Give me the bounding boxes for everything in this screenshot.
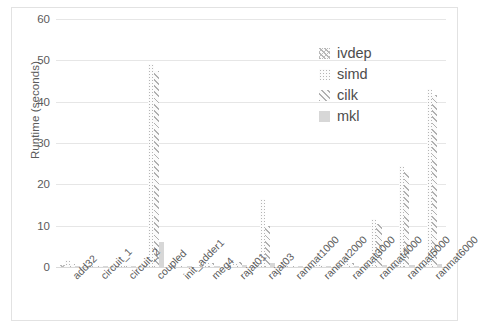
bar-group (223, 19, 251, 267)
bar-group (167, 19, 195, 267)
legend-label: simd (337, 67, 368, 82)
legend-item-simd[interactable]: simd (319, 64, 429, 85)
legend-label: ivdep (337, 46, 372, 61)
legend-item-mkl[interactable]: mkl (319, 106, 429, 127)
y-axis-tick-label: 20 (37, 178, 50, 190)
y-axis-title: Runtime (seconds) (29, 25, 41, 195)
bar-group (279, 19, 307, 267)
legend-swatch-simd-icon (319, 69, 330, 80)
y-axis-tick-label: 50 (37, 54, 50, 66)
legend-swatch-cilk-icon (319, 90, 330, 101)
y-axis-tick-label: 10 (37, 220, 50, 232)
legend-swatch-mkl-icon (319, 111, 330, 122)
x-axis-labels: add32circuit_1circuit_2coupledinit_adder… (56, 269, 446, 319)
y-axis-tick-label: 60 (37, 13, 50, 25)
bar-group (195, 19, 223, 267)
bar-group (112, 19, 140, 267)
bar-group (56, 19, 84, 267)
chart-container: Runtime (seconds) 0102030405060 add32cir… (11, 7, 458, 321)
legend-label: mkl (337, 109, 360, 124)
legend-item-ivdep[interactable]: ivdep (319, 43, 429, 64)
bar-cilk[interactable] (154, 71, 159, 267)
y-axis-tick-label: 30 (37, 137, 50, 149)
bar-group (251, 19, 279, 267)
y-axis-tick-label: 0 (44, 261, 50, 273)
legend-swatch-ivdep-icon (319, 48, 330, 59)
bar-group (84, 19, 112, 267)
legend-label: cilk (337, 88, 358, 103)
bar-group (140, 19, 168, 267)
legend-item-cilk[interactable]: cilk (319, 85, 429, 106)
chart-legend: ivdepsimdcilkmkl (319, 43, 429, 127)
y-axis-tick-label: 40 (37, 96, 50, 108)
